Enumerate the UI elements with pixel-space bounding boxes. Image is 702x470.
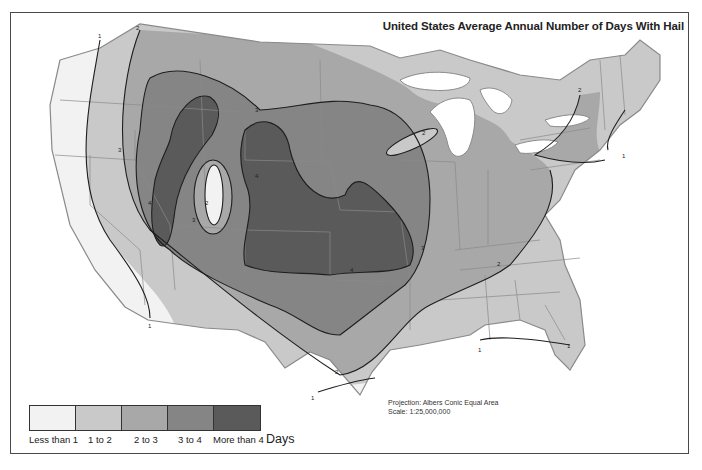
contour-label-1: 1 xyxy=(98,33,102,39)
legend-swatch-3-to-4 xyxy=(168,406,214,430)
contour-label-1: 1 xyxy=(311,395,315,401)
legend-label: More than 4 xyxy=(213,434,264,445)
legend-label: 3 to 4 xyxy=(178,434,202,445)
legend-swatch-less-than-1 xyxy=(30,406,76,430)
contour-label-1: 1 xyxy=(478,347,482,353)
projection-line: Projection: Albers Conic Equal Area xyxy=(388,398,499,407)
legend-swatch-1-to-2 xyxy=(76,406,122,430)
us-hail-map: 1 2 3 3 4 3 2 4 4 3 2 2 2 1 1 2 1 1 1 xyxy=(0,0,702,470)
legend xyxy=(29,405,261,431)
legend-label: 1 to 2 xyxy=(88,434,112,445)
legend-swatch-more-than-4 xyxy=(214,406,260,430)
contour-label-1: 1 xyxy=(148,323,152,329)
legend-unit: Days xyxy=(266,432,294,446)
projection-note: Projection: Albers Conic Equal Area Scal… xyxy=(388,398,499,416)
map-title: United States Average Annual Number of D… xyxy=(383,20,684,32)
scale-line: Scale: 1:25,000,000 xyxy=(388,407,499,416)
contour-label-1: 1 xyxy=(622,153,626,159)
legend-label: Less than 1 xyxy=(29,434,78,445)
legend-label: 2 to 3 xyxy=(134,434,158,445)
legend-swatch-2-to-3 xyxy=(122,406,168,430)
